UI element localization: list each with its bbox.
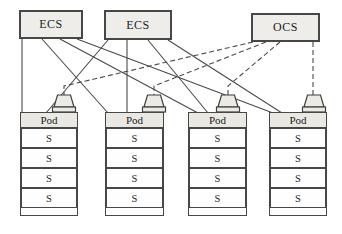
pod-3-server-4: S (189, 188, 246, 208)
node-ecs-1-label: ECS (39, 17, 63, 32)
pod-2-server-3: S (106, 168, 163, 188)
antenna-icon-pod4 (303, 95, 326, 112)
pod-3-server-3: S (189, 168, 246, 188)
diagram-canvas: ECS ECS OCS Pod S S S S Pod S S S S Pod … (0, 0, 342, 234)
pod-stack-2: Pod S S S S (105, 112, 164, 216)
pod-4-header: Pod (270, 113, 326, 128)
link-ocs-pod3-dashed (228, 42, 280, 95)
pod-3-header: Pod (189, 113, 246, 128)
link-ecs1-pod2 (42, 39, 108, 113)
pod-stack-4: Pod S S S S (269, 112, 327, 216)
pod-4-server-3: S (270, 168, 326, 188)
pod-2-header: Pod (106, 113, 163, 128)
pod-stack-1: Pod S S S S (20, 112, 78, 216)
antenna-icon-pod2 (143, 95, 166, 112)
node-ocs: OCS (251, 13, 320, 42)
antenna-icon-pod3 (217, 95, 240, 112)
pod-4-server-1: S (270, 128, 326, 148)
link-ocs-pod1-dashed (64, 42, 253, 95)
pod-2-server-4: S (106, 188, 163, 208)
pod-stack-3: Pod S S S S (188, 112, 247, 216)
pod-3-server-2: S (189, 148, 246, 168)
pod-4-server-2: S (270, 148, 326, 168)
node-ecs-2-label: ECS (126, 18, 150, 33)
pod-1-server-1: S (21, 128, 77, 148)
pod-4-server-4: S (270, 188, 326, 208)
node-ocs-label: OCS (273, 20, 298, 35)
pod-3-server-1: S (189, 128, 246, 148)
pod-1-header: Pod (21, 113, 77, 128)
link-ecs1-pod4 (77, 39, 273, 113)
node-ecs-1: ECS (19, 10, 83, 39)
pod-2-server-1: S (106, 128, 163, 148)
antenna-icon-pod1 (53, 95, 76, 112)
node-ecs-2: ECS (104, 10, 172, 40)
pod-2-server-2: S (106, 148, 163, 168)
pod-1-server-3: S (21, 168, 77, 188)
pod-1-server-2: S (21, 148, 77, 168)
pod-1-server-4: S (21, 188, 77, 208)
